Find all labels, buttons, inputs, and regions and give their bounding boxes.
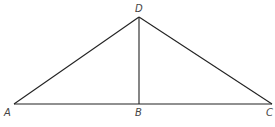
point-label-b: B	[135, 107, 142, 118]
point-label-a: A	[3, 107, 11, 118]
segment-AD	[14, 17, 139, 104]
point-label-c: C	[266, 107, 273, 118]
geometry-diagram: A B C D	[0, 0, 275, 127]
point-label-d: D	[135, 3, 143, 14]
segment-DC	[139, 17, 272, 104]
